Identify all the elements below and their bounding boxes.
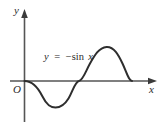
y-axis-label: y (13, 4, 19, 16)
equation-variable: x (87, 51, 93, 62)
equation-equals: = (54, 51, 60, 62)
origin-label: O (13, 83, 21, 95)
equation-lhs: y (43, 51, 49, 62)
equation-rhs: −sin (66, 51, 85, 62)
equation-annotation: y = −sin x (43, 51, 93, 62)
y-axis-arrow-icon (21, 9, 28, 18)
math-figure: y x O y = −sin x (0, 0, 163, 130)
plot-area: y x O y = −sin x (0, 0, 163, 130)
x-axis-label: x (148, 83, 154, 95)
